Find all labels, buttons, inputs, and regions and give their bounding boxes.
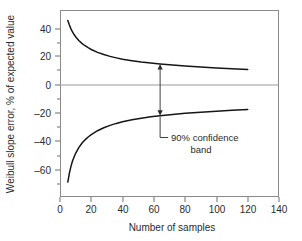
y-tick-label-0: 0 bbox=[45, 80, 51, 91]
y-tick-label-20: 20 bbox=[40, 51, 52, 62]
x-tick-label-60: 60 bbox=[148, 204, 160, 215]
confidence-band-label-line1: 90% confidence bbox=[171, 132, 239, 143]
y-tick-label-minus60: –60 bbox=[34, 165, 51, 176]
x-tick-label-120: 120 bbox=[240, 204, 257, 215]
x-tick-label-100: 100 bbox=[209, 204, 226, 215]
y-tick-label-minus40: –40 bbox=[34, 136, 51, 147]
weibull-confidence-band-chart: 40 20 0 –20 –40 –60 0 20 40 60 80 100 12… bbox=[0, 0, 302, 241]
x-tick-label-0: 0 bbox=[57, 204, 63, 215]
y-axis-ticks bbox=[55, 29, 60, 184]
chart-figure: 40 20 0 –20 –40 –60 0 20 40 60 80 100 12… bbox=[0, 0, 302, 241]
x-axis-title: Number of samples bbox=[129, 222, 216, 233]
y-tick-label-minus20: –20 bbox=[34, 108, 51, 119]
confidence-band-label-line2: band bbox=[190, 144, 211, 155]
y-axis-title: Weibull slope error, % of expected value bbox=[5, 14, 16, 193]
plot-background bbox=[60, 10, 279, 197]
x-tick-label-40: 40 bbox=[117, 204, 129, 215]
y-tick-label-40: 40 bbox=[40, 24, 52, 35]
x-axis-ticks bbox=[60, 197, 279, 202]
x-tick-label-140: 140 bbox=[271, 204, 288, 215]
x-tick-label-20: 20 bbox=[85, 204, 97, 215]
x-tick-label-80: 80 bbox=[179, 204, 191, 215]
